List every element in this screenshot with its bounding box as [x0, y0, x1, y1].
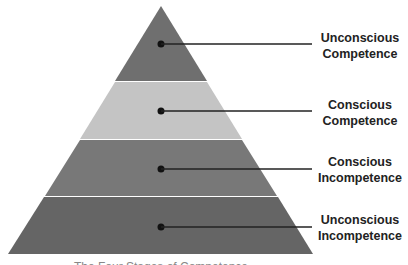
label-line: Conscious — [312, 97, 408, 113]
label-conscious-competence: Conscious Competence — [312, 97, 408, 129]
label-unconscious-incompetence: Unconscious Incompetence — [312, 212, 408, 244]
label-line: Incompetence — [312, 170, 408, 186]
label-line: Unconscious — [312, 30, 408, 46]
label-conscious-incompetence: Conscious Incompetence — [312, 154, 408, 186]
label-line: Competence — [312, 113, 408, 129]
label-unconscious-competence: Unconscious Competence — [312, 30, 408, 62]
label-line: Conscious — [312, 154, 408, 170]
diagram-caption: The Four Stages of Competence — [0, 257, 322, 265]
label-line: Competence — [312, 46, 408, 62]
label-line: Incompetence — [312, 228, 408, 244]
label-line: Unconscious — [312, 212, 408, 228]
